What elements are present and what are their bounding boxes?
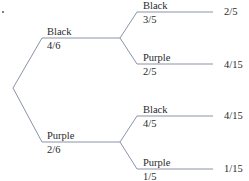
stage2-purple-black-prob: 4/5 <box>143 118 156 129</box>
stage2-purple-black-label: Black <box>143 104 168 115</box>
stage2-black-purple-label: Purple <box>143 52 170 63</box>
stage1-black-prob: 4/6 <box>47 40 60 51</box>
stage1-purple-prob: 2/6 <box>47 144 60 155</box>
stage2-black-purple-prob: 2/5 <box>143 66 156 77</box>
result-purple-purple: 1/15 <box>224 163 243 174</box>
stage2-black-black-label: Black <box>143 0 168 11</box>
result-purple-black: 4/15 <box>224 110 243 121</box>
stage1-purple-label: Purple <box>47 130 74 141</box>
branch-black-black <box>120 12 213 38</box>
stage1-black-label: Black <box>47 26 72 37</box>
branch-purple-black <box>120 116 213 142</box>
tree-lines <box>0 0 249 181</box>
stage2-black-black-prob: 3/5 <box>143 14 156 25</box>
stage2-purple-purple-prob: 1/5 <box>143 171 156 181</box>
stage2-purple-purple-label: Purple <box>143 157 170 168</box>
root-dot <box>2 11 4 13</box>
branch-black-1 <box>13 38 120 88</box>
result-black-purple: 4/15 <box>224 59 243 70</box>
result-black-black: 2/5 <box>224 6 237 17</box>
